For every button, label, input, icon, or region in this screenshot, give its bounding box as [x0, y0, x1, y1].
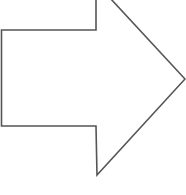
- right-arrow-shape: [2, 0, 186, 175]
- arrow-diagram: [0, 0, 186, 195]
